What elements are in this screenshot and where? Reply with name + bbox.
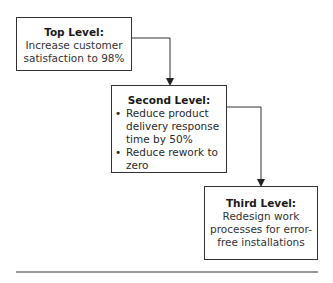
second-level-bullet: Reduce product delivery response time by…	[126, 107, 226, 146]
third-level-title: Third Level:	[205, 197, 317, 210]
top-level-text: Increase customer satisfaction to 98%	[17, 39, 131, 65]
top-level-title: Top Level:	[17, 26, 131, 39]
third-level-text: Redesign work processes for error-free i…	[205, 210, 317, 249]
second-level-bullet: Reduce rework to zero	[126, 146, 226, 172]
second-level-title: Second Level:	[112, 94, 226, 107]
second-level-box: Second Level: Reduce product delivery re…	[111, 85, 227, 173]
top-level-box: Top Level: Increase customer satisfactio…	[16, 17, 132, 71]
third-level-box: Third Level: Redesign work processes for…	[204, 186, 318, 260]
second-level-bullets: Reduce product delivery response time by…	[112, 107, 226, 172]
